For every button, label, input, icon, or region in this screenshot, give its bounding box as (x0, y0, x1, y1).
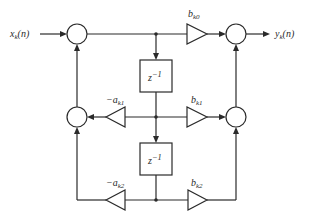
arrow-icon (153, 53, 159, 60)
arrow-icon (219, 31, 226, 37)
gain-bk2-icon (188, 190, 207, 210)
gain-ak1-label: −ak1 (106, 95, 124, 107)
arrow-icon (153, 136, 159, 143)
output-label: yk(n) (275, 29, 294, 41)
adder-left-middle (67, 107, 87, 127)
arrow-icon (60, 31, 67, 37)
gain-ak2-label: −ak2 (106, 178, 124, 190)
gain-bk1-icon (187, 107, 207, 127)
arrow-icon (263, 31, 270, 37)
gain-bk0-label: bk0 (188, 9, 200, 21)
gain-bk0-icon (187, 24, 207, 44)
adder-right-top (226, 24, 246, 44)
arrow-icon (87, 114, 94, 120)
signal-flow-diagram (0, 0, 312, 222)
adder-left-top (67, 24, 87, 44)
gain-ak1-icon (106, 107, 125, 127)
adder-right-middle (226, 107, 246, 127)
delay-2-label: z−1 (148, 154, 162, 166)
gain-bk1-label: bk1 (191, 95, 203, 107)
arrow-icon (233, 127, 239, 134)
gain-bk2-label: bk2 (191, 178, 203, 190)
junction-dot (154, 32, 158, 36)
arrow-icon (219, 114, 226, 120)
arrow-icon (233, 44, 239, 51)
arrow-icon (74, 44, 80, 51)
delay-1-label: z−1 (148, 71, 162, 83)
gain-ak2-icon (106, 190, 125, 210)
arrow-icon (74, 127, 80, 134)
input-label: xk(n) (10, 29, 29, 41)
